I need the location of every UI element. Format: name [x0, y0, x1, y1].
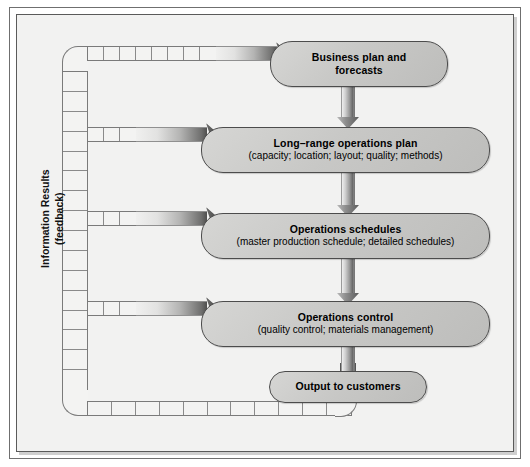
node-long-range-operations-plan[interactable]: Long–range operations plan (capacity; lo…: [201, 127, 490, 173]
flow-arrow-business-to-longrange: [337, 85, 359, 129]
node-operations-control[interactable]: Operations control (quality control; mat…: [201, 301, 490, 347]
node-long-range-subtitle: (capacity; location; layout; quality; me…: [249, 150, 443, 163]
feedback-branch-schedules: [87, 211, 137, 226]
node-output-to-customers-title: Output to customers: [295, 380, 400, 393]
feedback-label-line2: (feedback): [53, 192, 65, 245]
feedback-branch-long-range: [87, 127, 137, 142]
node-output-to-customers[interactable]: Output to customers: [269, 371, 427, 403]
feedback-label-line1: Information Results: [39, 169, 51, 268]
node-operations-control-subtitle: (quality control; materials management): [258, 324, 434, 337]
node-business-plan[interactable]: Business plan and forecasts: [270, 41, 448, 87]
feedback-track-bottom: [87, 401, 352, 416]
feedback-loop-corner-bottom-left: [62, 390, 88, 416]
feedback-label: Information Results (feedback): [39, 154, 66, 284]
diagram-canvas: Information Results (feedback): [16, 14, 514, 452]
flow-arrow-schedules-to-control: [337, 257, 359, 305]
node-business-plan-title: Business plan and: [312, 51, 406, 64]
node-operations-control-title: Operations control: [298, 311, 394, 324]
feedback-track-top: [87, 46, 217, 61]
node-long-range-title: Long–range operations plan: [274, 137, 418, 150]
node-business-plan-title2: forecasts: [335, 64, 383, 77]
node-operations-schedules-subtitle: (master production schedule; detailed sc…: [237, 236, 455, 249]
diagram-root: Information Results (feedback): [0, 0, 530, 467]
node-operations-schedules[interactable]: Operations schedules (master production …: [201, 213, 490, 259]
node-operations-schedules-title: Operations schedules: [290, 223, 402, 236]
feedback-loop-corner-top-left: [62, 46, 88, 72]
flow-arrow-longrange-to-schedules: [337, 171, 359, 217]
feedback-branch-control: [87, 301, 137, 316]
